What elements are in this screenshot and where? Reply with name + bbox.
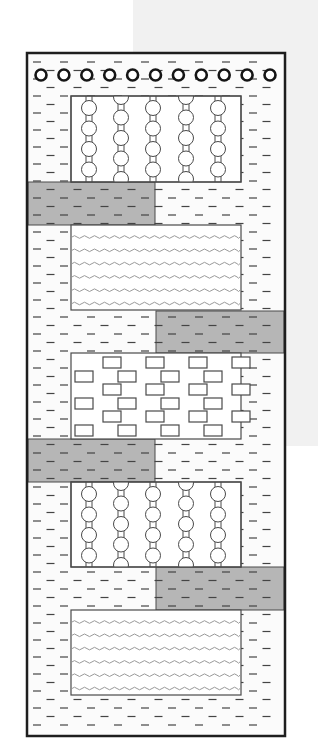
pillar-bead [82, 162, 97, 177]
brick-box [71, 353, 250, 439]
pillar-bead [82, 507, 97, 522]
pillar-bead [114, 151, 129, 166]
pillar-bead [179, 110, 194, 125]
pillar-bead [82, 548, 97, 563]
brick-icon [189, 357, 207, 368]
diagram-canvas [0, 0, 318, 753]
pillar-bead [211, 548, 226, 563]
shale-band-band-1 [28, 182, 155, 225]
pillar-bead [211, 101, 226, 116]
ring-icon [127, 70, 138, 81]
pillar-box-2 [71, 476, 241, 573]
pillar-box-1 [71, 90, 241, 187]
wave-box-2-outline [71, 610, 241, 695]
pillar-bead [179, 131, 194, 146]
brick-icon [146, 357, 164, 368]
pillar-bead [114, 131, 129, 146]
stratigraphic-column-diagram [0, 0, 318, 753]
brick-icon [189, 384, 207, 395]
brick-icon [204, 425, 222, 436]
ring-icon [242, 70, 253, 81]
brick-icon [204, 371, 222, 382]
pillar-bead [82, 101, 97, 116]
pillar-bead [211, 487, 226, 502]
pillar-bead [114, 537, 129, 552]
pillar-bead [146, 142, 161, 157]
pillar-bead [146, 101, 161, 116]
pillar-bead [211, 507, 226, 522]
brick-icon [161, 371, 179, 382]
ring-icon [173, 70, 184, 81]
shale-band-band-3 [28, 439, 155, 482]
wave-box-1-outline [71, 225, 241, 310]
pillar-bead [146, 121, 161, 136]
pillar-bead [82, 142, 97, 157]
pillar-bead [179, 517, 194, 532]
pillar-bead [146, 162, 161, 177]
pillar-bead [114, 517, 129, 532]
brick-icon [75, 371, 93, 382]
ring-icon [58, 70, 69, 81]
brick-icon [232, 411, 250, 422]
ring-icon [36, 70, 47, 81]
pillar-bead [146, 487, 161, 502]
brick-icon [103, 411, 121, 422]
ring-icon [196, 70, 207, 81]
pillar-bead [179, 537, 194, 552]
pillar-bead [82, 487, 97, 502]
brick-icon [118, 425, 136, 436]
pillar-bead [82, 121, 97, 136]
pillar-bead [179, 496, 194, 511]
brick-icon [118, 398, 136, 409]
pillar-bead [82, 528, 97, 543]
wave-box-2 [71, 610, 241, 695]
brick-icon [146, 384, 164, 395]
pillar-bead [146, 548, 161, 563]
pillar-bead [211, 528, 226, 543]
ring-icon [150, 70, 161, 81]
brick-icon [161, 398, 179, 409]
pillar-bead [179, 151, 194, 166]
pillar-bead [114, 110, 129, 125]
wave-box-1 [71, 225, 241, 310]
pillar-bead [211, 142, 226, 157]
ring-icon [81, 70, 92, 81]
brick-icon [103, 357, 121, 368]
brick-icon [232, 384, 250, 395]
ring-icon [265, 70, 276, 81]
brick-icon [75, 425, 93, 436]
brick-icon [161, 425, 179, 436]
brick-icon [118, 371, 136, 382]
brick-icon [75, 398, 93, 409]
ring-icon [219, 70, 230, 81]
pillar-bead [146, 507, 161, 522]
ring-icon [104, 70, 115, 81]
brick-icon [189, 411, 207, 422]
pillar-bead [146, 528, 161, 543]
pillar-bead [114, 496, 129, 511]
brick-icon [103, 384, 121, 395]
pillar-bead [211, 162, 226, 177]
brick-icon [232, 357, 250, 368]
pillar-bead [211, 121, 226, 136]
brick-icon [146, 411, 164, 422]
brick-icon [204, 398, 222, 409]
